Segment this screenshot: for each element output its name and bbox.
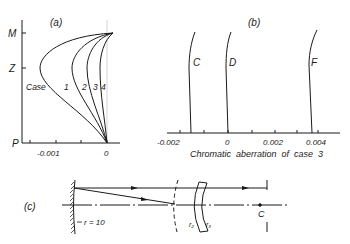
- panel-b: [167, 30, 340, 133]
- curve-f: [309, 30, 317, 133]
- case-3-label: 3: [93, 82, 98, 92]
- figure: (a) M Z P Case 1 2 3 4 -0.001 0 (b) C D …: [0, 0, 350, 244]
- surface-label-r3: r₃: [206, 221, 211, 228]
- case-2-label: 2: [81, 82, 87, 92]
- curve-label-c: C: [193, 57, 201, 68]
- panel-b-label: (b): [248, 17, 260, 28]
- panel-a-label: (a): [50, 17, 62, 28]
- y-label-z: Z: [8, 63, 16, 74]
- curve-c: [189, 32, 195, 133]
- curve-d: [226, 32, 231, 133]
- mirror-radius-label: r = 10: [84, 218, 105, 227]
- reflected-ray: [74, 188, 175, 204]
- x-tick-b-3: 0.002: [263, 138, 284, 147]
- surface-label-r2: r₂: [189, 221, 194, 228]
- x-tick-b-2: 0: [225, 138, 230, 147]
- curve-label-f: F: [311, 57, 318, 68]
- y-label-p: P: [12, 138, 19, 149]
- x-tick-b-1: -0.002: [157, 138, 180, 147]
- case-label: Case: [26, 82, 46, 92]
- y-label-m: M: [8, 28, 17, 39]
- case-1-label: 1: [64, 82, 69, 92]
- center-label-c: C: [258, 209, 265, 219]
- panel-c-label: (c): [24, 201, 36, 212]
- case-4-label: 4: [101, 82, 106, 92]
- curve-label-d: D: [229, 57, 236, 68]
- x-axis-label-b: Chromatic aberration of case 3: [190, 149, 323, 159]
- x-tick-a-neg: -0.001: [37, 149, 60, 158]
- x-tick-a-zero: 0: [104, 149, 109, 158]
- x-tick-b-4: 0.004: [306, 138, 327, 147]
- curve-case-3: [87, 33, 113, 143]
